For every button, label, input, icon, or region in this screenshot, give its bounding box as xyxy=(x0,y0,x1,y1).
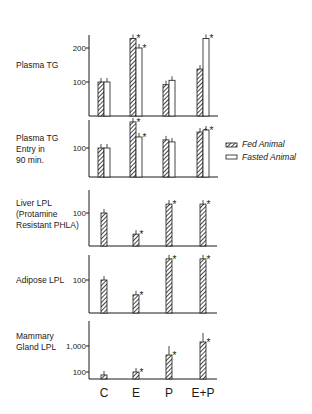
category-p: P xyxy=(165,386,173,400)
significance-marker: * xyxy=(137,117,141,128)
significance-marker: * xyxy=(140,229,144,240)
bar-e-fed xyxy=(133,295,139,313)
legend-fed-label: Fed Animal xyxy=(242,139,286,149)
tick-labels: 200 100 100 100 100 1,000 100 xyxy=(66,44,87,377)
significance-marker: * xyxy=(173,199,177,210)
panel3-label-line2: (Protamine xyxy=(16,209,58,219)
bar-p-fasted xyxy=(169,80,175,116)
category-labels: C E P E+P xyxy=(100,386,215,400)
significance-marker: * xyxy=(140,367,144,378)
bar-e-plus-p-fasted xyxy=(203,38,209,116)
bar-p-fed xyxy=(163,85,169,116)
bar-p-fed xyxy=(166,355,172,379)
panel3-label-line3: Resistant PHLA) xyxy=(16,220,79,230)
bar-p-fed xyxy=(163,140,169,177)
panel1-label: Plasma TG xyxy=(16,60,58,70)
bar-c-fasted xyxy=(104,82,110,116)
panel2-tick-100: 100 xyxy=(73,144,87,153)
significance-marker: * xyxy=(210,125,214,136)
panel5-tick-100: 100 xyxy=(73,368,87,377)
significance-marker: * xyxy=(210,33,214,44)
significance-marker: * xyxy=(137,33,141,44)
legend: Fed Animal Fasted Animal xyxy=(226,139,297,162)
panel5-axes xyxy=(89,321,217,379)
category-c: C xyxy=(100,386,109,400)
bar-e-plus-p-fasted xyxy=(203,130,209,177)
bar-c-fed xyxy=(98,82,104,116)
panel5-label-line1: Mammary xyxy=(16,331,55,341)
significance-marker: * xyxy=(143,43,147,54)
category-e: E xyxy=(132,386,140,400)
figure: Plasma TG Plasma TG Entry in 90 min. Liv… xyxy=(0,0,312,414)
panel1-tick-200: 200 xyxy=(73,44,87,53)
significance-marker: * xyxy=(207,199,211,210)
panel1-tick-100: 100 xyxy=(73,78,87,87)
panel5-tick-1000: 1,000 xyxy=(66,342,87,351)
bar-c-fed xyxy=(101,375,107,379)
bar-e-plus-p-fed xyxy=(200,259,206,313)
panel4-tick-100: 100 xyxy=(73,276,87,285)
significance-marker: * xyxy=(140,290,144,301)
bars: ***************** xyxy=(98,33,214,379)
bar-e-fasted xyxy=(136,137,142,177)
bar-c-fed xyxy=(98,148,104,177)
legend-fasted-swatch xyxy=(226,155,237,159)
bar-e-fed xyxy=(133,372,139,379)
panel2-label-line3: 90 min. xyxy=(16,155,44,165)
bar-c-fed xyxy=(101,213,107,246)
bar-e-plus-p-fed xyxy=(197,132,203,177)
bar-p-fasted xyxy=(169,142,175,177)
significance-marker: * xyxy=(143,132,147,143)
bar-e-fed xyxy=(130,122,136,177)
panel2-label-line1: Plasma TG xyxy=(16,133,58,143)
bar-p-fed xyxy=(166,259,172,313)
bar-c-fasted xyxy=(104,148,110,177)
panel3-tick-100: 100 xyxy=(73,209,87,218)
panel3-label-line1: Liver LPL xyxy=(16,198,52,208)
bar-e-plus-p-fed xyxy=(197,69,203,116)
significance-marker: * xyxy=(173,350,177,361)
significance-marker: * xyxy=(207,337,211,348)
bar-e-fasted xyxy=(136,48,142,116)
significance-marker: * xyxy=(207,254,211,265)
bar-e-fed xyxy=(130,38,136,116)
legend-fed-swatch xyxy=(226,143,237,147)
bar-e-plus-p-fed xyxy=(200,342,206,379)
panel4-axes xyxy=(89,255,217,313)
panel2-label-line2: Entry in xyxy=(16,144,45,154)
category-e-plus-p: E+P xyxy=(191,386,214,400)
panel-labels: Plasma TG Plasma TG Entry in 90 min. Liv… xyxy=(16,60,79,352)
panel4-label: Adipose LPL xyxy=(16,275,64,285)
bar-p-fed xyxy=(166,204,172,246)
significance-marker: * xyxy=(173,254,177,265)
panel3-axes xyxy=(89,190,217,246)
panel5-label-line2: Gland LPL xyxy=(16,342,56,352)
bar-e-plus-p-fed xyxy=(200,204,206,246)
bar-c-fed xyxy=(101,280,107,313)
legend-fasted-label: Fasted Animal xyxy=(242,152,297,162)
bar-e-fed xyxy=(133,234,139,246)
